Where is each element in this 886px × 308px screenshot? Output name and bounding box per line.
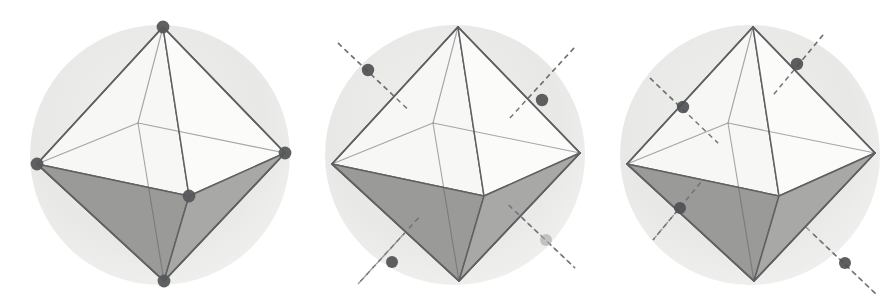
axis-b1-pole-dot (677, 101, 689, 113)
axis-b2-pole-dot (791, 58, 803, 70)
axis-b2-antipole-dot (674, 202, 686, 214)
axis-b1-antipole-dot (839, 257, 851, 269)
panel-axes-set-b (0, 0, 886, 308)
figure-root (0, 0, 886, 308)
